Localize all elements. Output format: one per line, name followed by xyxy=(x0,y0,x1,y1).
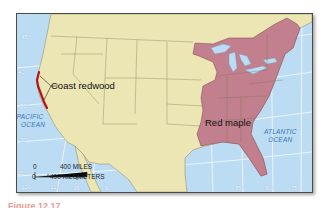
latitude-label: 40° xyxy=(18,69,27,75)
red-maple-label: Red maple xyxy=(205,118,251,128)
longitude-label: 95° xyxy=(73,185,82,191)
longitude-label: 90° xyxy=(104,185,113,191)
coast-redwood-label: Coast redwood xyxy=(51,81,115,91)
pacific-ocean-label: PACIFIC OCEAN xyxy=(16,114,45,128)
figure-caption: Figure 12.17 xyxy=(8,201,61,208)
longitude-label: 120° xyxy=(21,184,33,190)
scale-kilometers-label: 400 KILOMETERS xyxy=(50,174,105,181)
longitude-label: 85° xyxy=(235,185,244,191)
latitude-label: 35° xyxy=(20,103,29,109)
longitude-label: 80° xyxy=(265,185,274,191)
scale-zero-km-visible: 0 xyxy=(32,174,36,181)
latitude-label: 45° xyxy=(21,34,30,40)
atlantic-ocean-label: ATLANTIC OCEAN xyxy=(264,129,297,143)
scale-miles-label: 400 MILES xyxy=(60,164,92,171)
scale-zero-miles: 0 xyxy=(33,164,37,171)
range-map: 45° 40° 35° 30° 25° 120° 115° 95° 90° 85… xyxy=(16,13,313,193)
longitude-label: 75° xyxy=(291,185,300,191)
latitude-label: 30° xyxy=(20,137,29,143)
longitude-label: 115° xyxy=(50,184,62,190)
latitude-label: 25° xyxy=(17,170,26,176)
